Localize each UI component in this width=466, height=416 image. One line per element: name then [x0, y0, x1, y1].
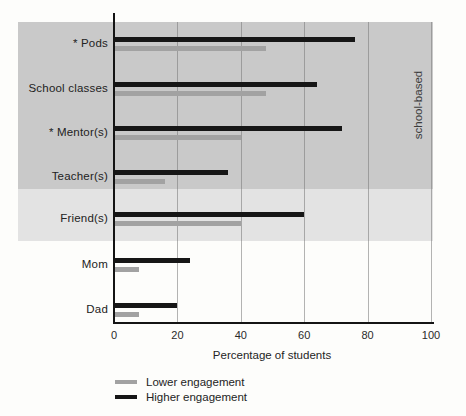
- x-tick-0: 0: [97, 329, 131, 341]
- bar-lower: [115, 179, 165, 184]
- legend-label: Higher engagement: [146, 391, 247, 403]
- gridline-40: [241, 22, 242, 322]
- category-label: * Mentor(s): [0, 124, 108, 140]
- bar-lower: [115, 312, 139, 317]
- category-label: Mom: [0, 256, 108, 272]
- category-label: Friend(s): [0, 210, 108, 226]
- bar-lower: [115, 91, 266, 96]
- x-tick-20: 20: [160, 329, 194, 341]
- x-axis-label: Percentage of students: [162, 349, 382, 361]
- gridline-60: [304, 22, 305, 322]
- legend-swatch: [115, 380, 137, 384]
- category-label: * Pods: [0, 35, 108, 51]
- bar-higher: [115, 258, 190, 263]
- bar-lower: [115, 135, 241, 140]
- category-label: School classes: [0, 80, 108, 96]
- engagement-bar-chart: * PodsSchool classes* Mentor(s)Teacher(s…: [0, 0, 466, 416]
- bar-higher: [115, 82, 317, 87]
- legend-swatch: [115, 395, 137, 399]
- x-axis-line: [113, 322, 434, 324]
- gridline-100: [431, 22, 432, 322]
- category-label: Dad: [0, 301, 108, 317]
- legend-row: Higher engagement: [115, 389, 247, 404]
- x-tick-60: 60: [287, 329, 321, 341]
- bar-higher: [115, 170, 228, 175]
- bar-higher: [115, 212, 304, 217]
- legend-row: Lower engagement: [115, 374, 247, 389]
- bar-higher: [115, 126, 342, 131]
- gridline-80: [368, 22, 369, 322]
- bar-higher: [115, 303, 177, 308]
- y-axis-line: [113, 13, 115, 324]
- x-tick-40: 40: [224, 329, 258, 341]
- legend: Lower engagementHigher engagement: [115, 374, 247, 404]
- x-tick-100: 100: [414, 329, 448, 341]
- x-tick-80: 80: [351, 329, 385, 341]
- category-label: Teacher(s): [0, 168, 108, 184]
- legend-label: Lower engagement: [146, 376, 244, 388]
- school-based-label: school-based: [410, 60, 426, 150]
- bar-lower: [115, 46, 266, 51]
- bar-higher: [115, 37, 355, 42]
- bar-lower: [115, 267, 139, 272]
- bar-lower: [115, 221, 241, 226]
